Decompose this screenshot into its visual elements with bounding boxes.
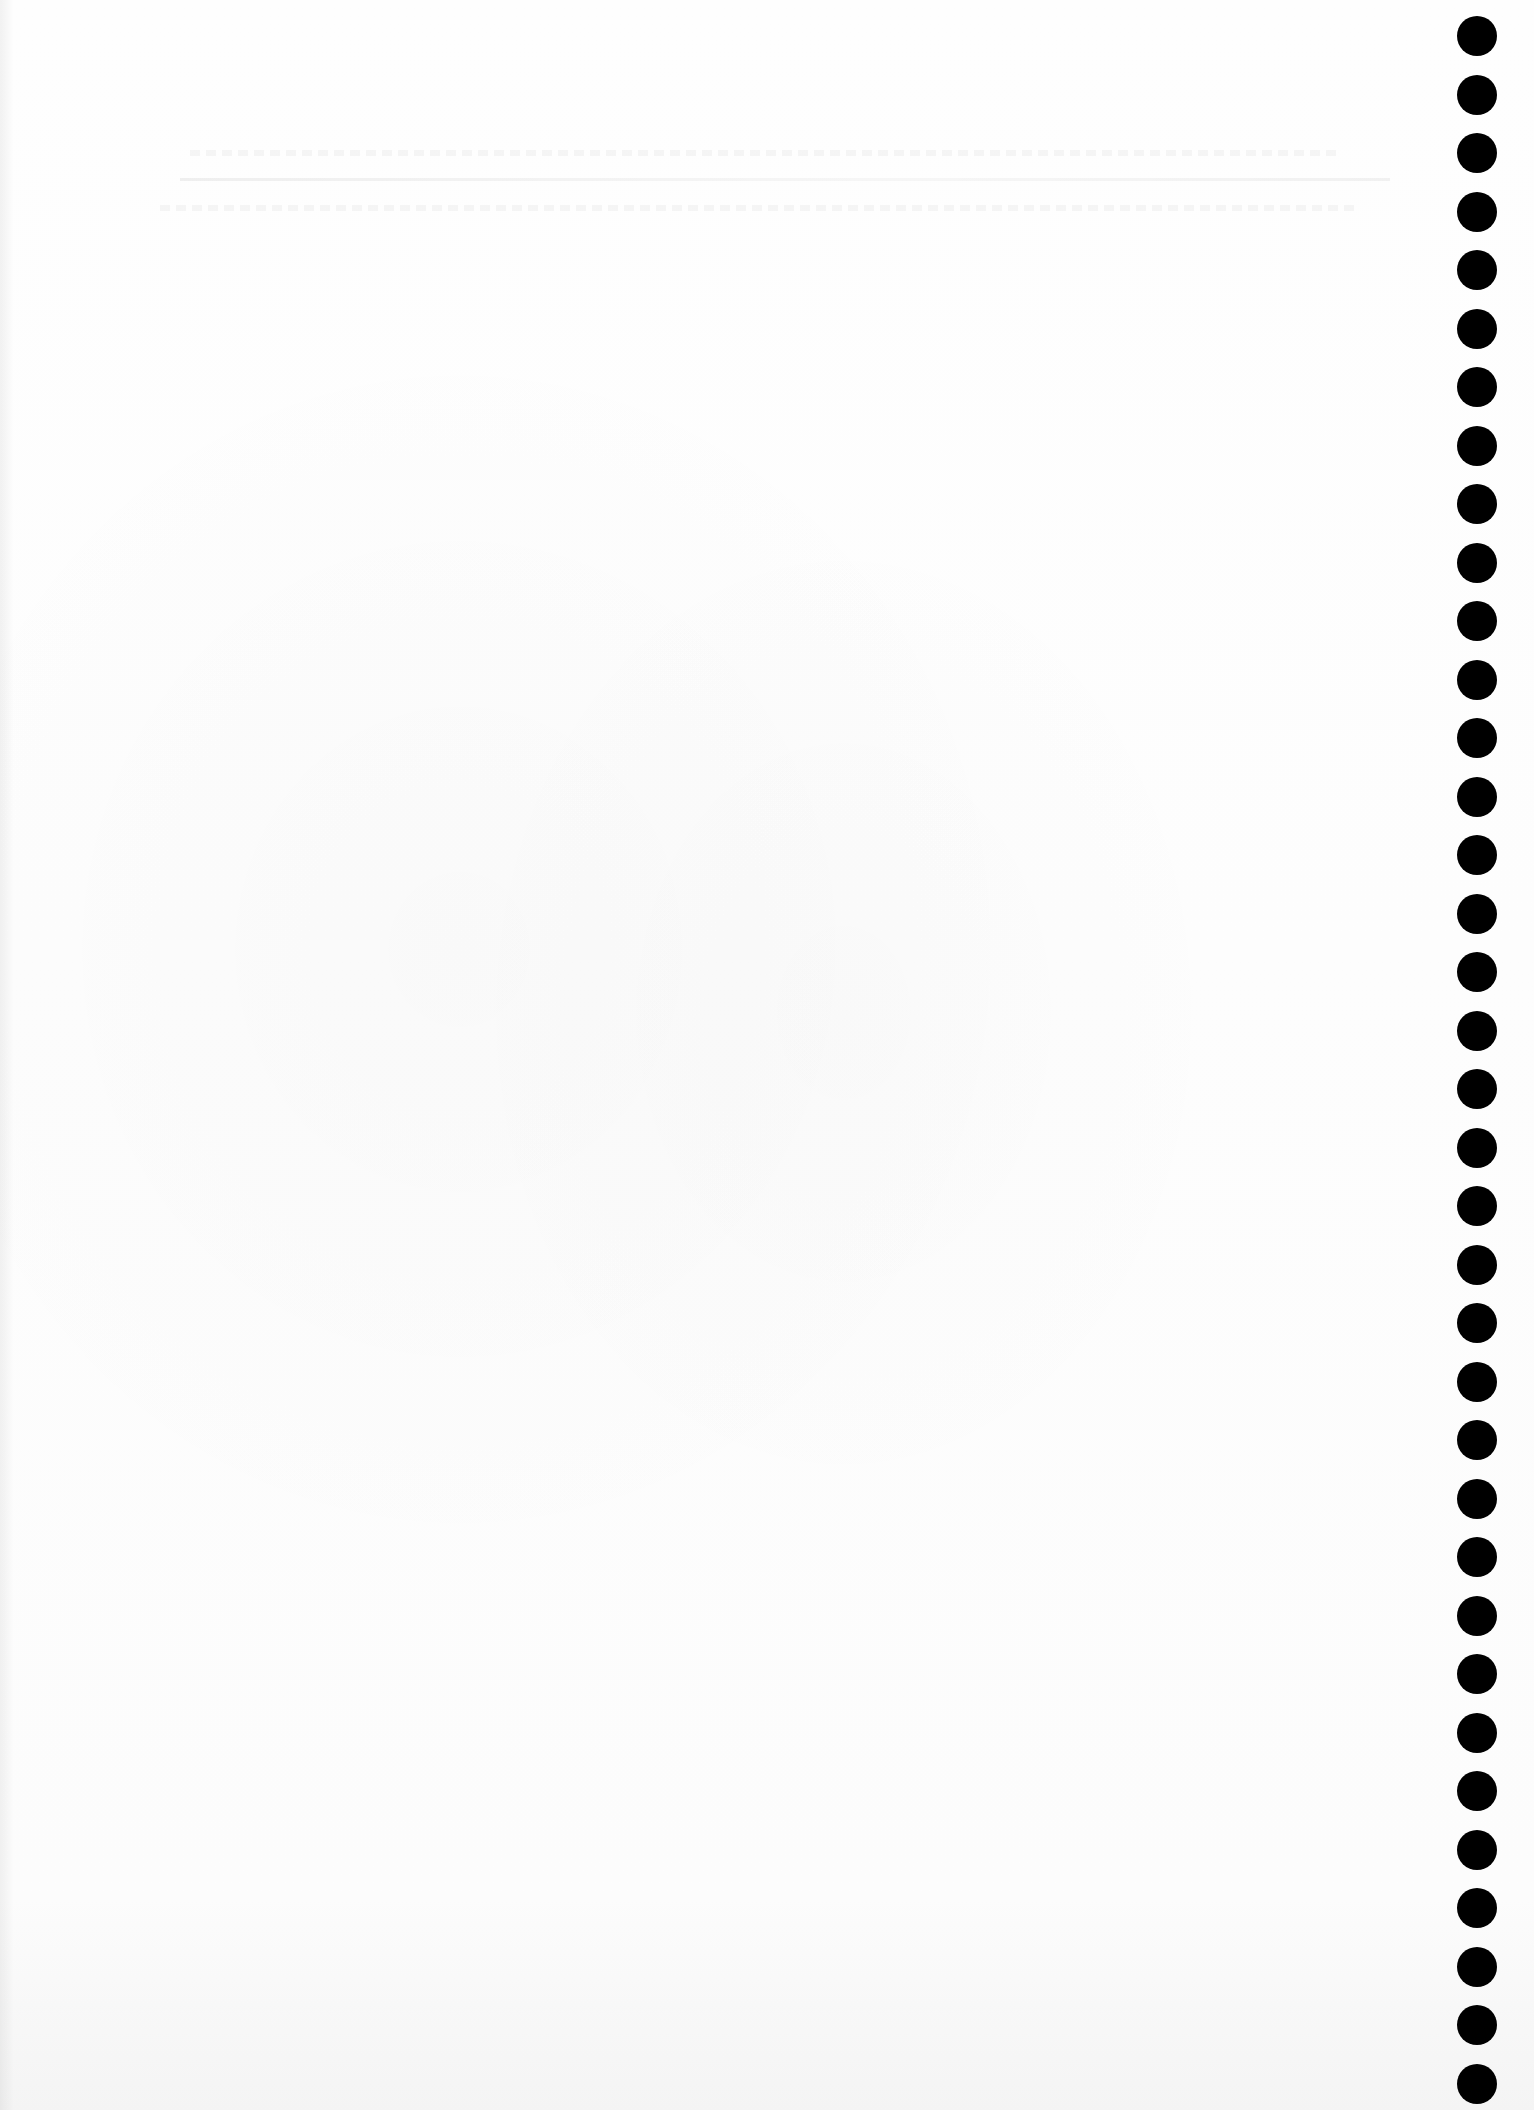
punch-hole [1457,367,1497,407]
punch-hole [1457,1830,1497,1870]
punch-hole [1457,1303,1497,1343]
punch-hole [1457,1069,1497,1109]
punch-hole [1457,16,1497,56]
scanned-page [0,0,1534,2110]
punch-hole [1457,1947,1497,1987]
punch-hole [1457,718,1497,758]
punch-hole [1457,192,1497,232]
punch-hole [1457,75,1497,115]
punch-hole [1457,1011,1497,1051]
punch-hole [1457,1537,1497,1577]
punch-hole [1457,835,1497,875]
punch-hole [1457,426,1497,466]
punch-hole [1457,133,1497,173]
punch-hole [1457,1771,1497,1811]
punch-hole [1457,2005,1497,2045]
punch-hole [1457,894,1497,934]
punch-hole [1457,660,1497,700]
punch-hole [1457,2064,1497,2104]
punch-hole [1457,250,1497,290]
punch-hole [1457,484,1497,524]
punch-hole [1457,1362,1497,1402]
punch-hole [1457,1128,1497,1168]
punch-hole [1457,1713,1497,1753]
punch-hole [1457,601,1497,641]
punch-hole [1457,309,1497,349]
punch-hole [1457,1245,1497,1285]
punch-hole [1457,1596,1497,1636]
punch-hole [1457,1186,1497,1226]
punch-hole [1457,1479,1497,1519]
punch-hole [1457,543,1497,583]
punch-hole [1457,1420,1497,1460]
punch-hole [1457,1888,1497,1928]
punch-hole [1457,952,1497,992]
punch-hole [1457,777,1497,817]
punch-holes [0,0,1534,2110]
punch-hole [1457,1654,1497,1694]
